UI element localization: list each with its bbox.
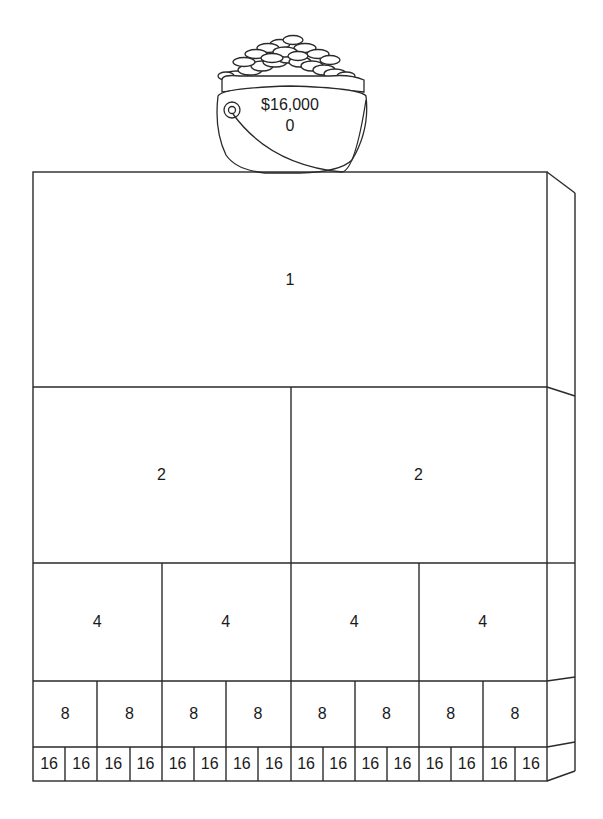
cell-level-4: 16 [162, 747, 194, 781]
side-face [547, 172, 575, 781]
cell-level-4: 16 [322, 747, 354, 781]
cell-level-1: 2 [290, 387, 547, 563]
cell-level-3: 8 [226, 681, 290, 747]
cell-level-2: 4 [33, 563, 162, 681]
cell-level-4: 16 [97, 747, 129, 781]
cell-level-4: 16 [290, 747, 322, 781]
cell-level-1: 2 [33, 387, 290, 563]
cell-level-2: 4 [419, 563, 548, 681]
cell-level-4: 16 [354, 747, 386, 781]
cell-level-2: 4 [162, 563, 291, 681]
cell-level-4: 16 [129, 747, 161, 781]
cell-level-4: 16 [451, 747, 483, 781]
cell-level-4: 16 [515, 747, 547, 781]
cell-level-4: 16 [258, 747, 290, 781]
cell-level-3: 8 [419, 681, 483, 747]
cell-level-4: 16 [65, 747, 97, 781]
cell-level-0: 1 [33, 172, 547, 387]
cell-level-4: 16 [194, 747, 226, 781]
cell-level-3: 8 [290, 681, 354, 747]
cell-level-4: 16 [483, 747, 515, 781]
cell-level-3: 8 [97, 681, 161, 747]
cell-level-3: 8 [354, 681, 418, 747]
pot-amount-label: $16,000 [240, 96, 340, 114]
coins-icon [218, 36, 355, 82]
cell-level-4: 16 [386, 747, 418, 781]
cell-level-2: 4 [290, 563, 419, 681]
cell-level-4: 16 [226, 747, 258, 781]
cell-level-4: 16 [419, 747, 451, 781]
pyramid-diagram: $16,000 0 122444488888888161616161616161… [0, 0, 603, 819]
pot-level-label: 0 [240, 117, 340, 135]
cell-level-3: 8 [483, 681, 547, 747]
cell-level-3: 8 [33, 681, 97, 747]
cell-level-3: 8 [162, 681, 226, 747]
cell-level-4: 16 [33, 747, 65, 781]
